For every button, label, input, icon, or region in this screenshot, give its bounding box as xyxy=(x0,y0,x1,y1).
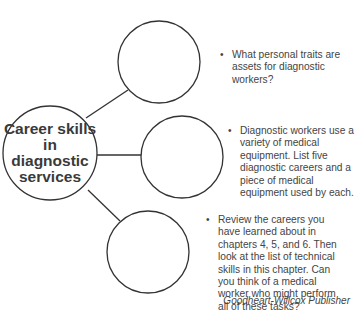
branch-2-text: Diagnostic workers use a variety of medi… xyxy=(240,125,354,198)
center-node-label: Career skills in diagnostic services xyxy=(3,103,97,203)
branch-1-text: What personal traits are assets for diag… xyxy=(232,49,340,85)
bullet-icon: • xyxy=(220,49,224,61)
publisher-credit: Goodheart-Willcox Publisher xyxy=(223,295,350,306)
branch-3-circle xyxy=(107,211,189,293)
branch-1-prompt: • What personal traits are assets for di… xyxy=(232,49,356,86)
bullet-icon: • xyxy=(228,125,232,137)
bullet-icon: • xyxy=(206,214,210,226)
branch-2-circle xyxy=(141,116,223,198)
branch-1-circle xyxy=(118,21,200,103)
branch-2-prompt: • Diagnostic workers use a variety of me… xyxy=(240,125,358,199)
